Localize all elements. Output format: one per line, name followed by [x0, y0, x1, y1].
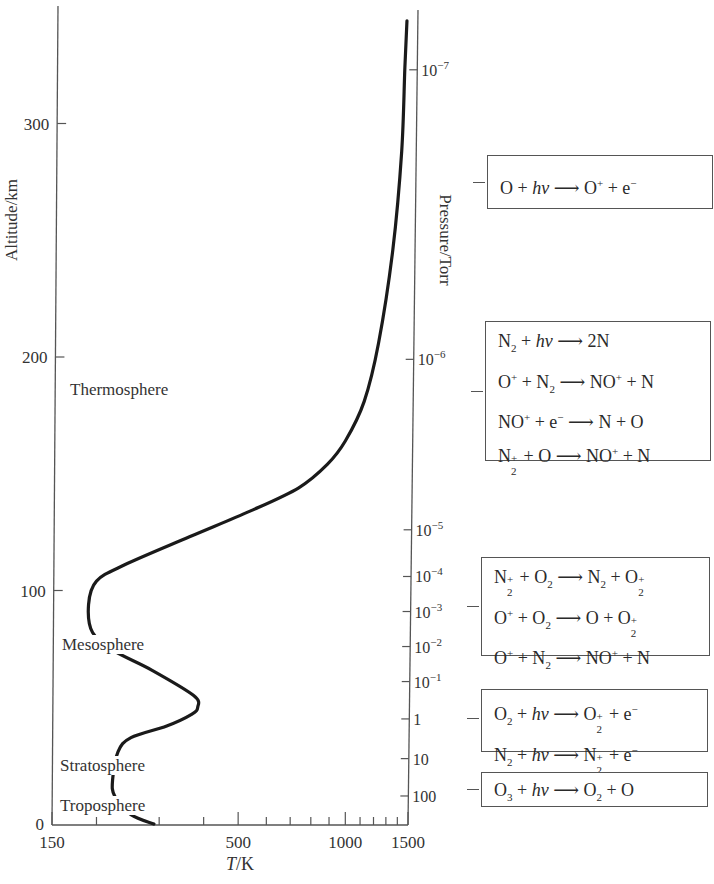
- x-axis-label: T/K: [226, 854, 254, 874]
- reaction-box: O + hν ⟶ O+ + e−: [487, 155, 713, 209]
- reaction-box: N2 + hν ⟶ 2NO+ + N2 ⟶ NO+ + NNO+ + e− ⟶ …: [485, 321, 711, 461]
- x-tick-label: 1000: [328, 833, 362, 852]
- y-axis-label: Altitude/km: [2, 179, 21, 261]
- reaction-equation: N+2 + O ⟶ NO+ + N: [498, 437, 710, 471]
- box-connector: [471, 391, 483, 392]
- layer-label-thermosphere: Thermosphere: [70, 380, 168, 399]
- pressure-tick-label: 10: [413, 751, 429, 768]
- y-tick-label: 0: [36, 815, 45, 834]
- pressure-tick-label: 10−7: [421, 59, 449, 79]
- reaction-box: N+2 + O2 ⟶ N2 + O+2O+ + O2 ⟶ O + O+2O+ +…: [481, 557, 710, 656]
- y-tick-label: 200: [22, 348, 48, 367]
- pressure-tick-label: 100: [412, 788, 436, 805]
- pressure-tick-label: 10−2: [414, 636, 442, 656]
- reaction-equation: O+ + N2 ⟶ NO+ + N: [494, 639, 709, 680]
- layer-label-stratosphere: Stratosphere: [60, 756, 145, 775]
- box-connector: [467, 718, 479, 719]
- layer-label-mesosphere: Mesosphere: [62, 635, 144, 654]
- x-tick-label: 1500: [391, 833, 425, 852]
- pressure-tick-label: 10−4: [415, 565, 443, 585]
- pressure-tick-label: 10−5: [416, 519, 444, 539]
- reaction-equation: O + hν ⟶ O+ + e−: [500, 169, 712, 203]
- reaction-equation: N+2 + O2 ⟶ N2 + O+2: [494, 563, 709, 599]
- reaction-equation: O3 + hν ⟶ O2 + O: [494, 776, 707, 812]
- reaction-equation: O+ + O2 ⟶ O + O+2: [494, 599, 709, 640]
- pressure-tick-label: 1: [413, 711, 421, 728]
- x-tick-label: 500: [225, 833, 251, 852]
- x-tick-label: 150: [39, 833, 65, 852]
- box-connector: [467, 606, 479, 607]
- pressure-tick-label: 10−1: [414, 671, 442, 691]
- reaction-equation: N2 + hν ⟶ N+2 + e−: [494, 736, 707, 777]
- x-ticks: 15050010001500: [39, 812, 425, 852]
- pressure-ticks: 10−710−610−510−410−310−210−1110100: [400, 59, 449, 805]
- y-tick-label: 100: [20, 582, 46, 601]
- pressure-tick-label: 10−6: [418, 348, 446, 368]
- reaction-equation: NO+ + e− ⟶ N + O: [498, 403, 710, 437]
- y-axis-altitude: [52, 6, 58, 825]
- axes: [52, 6, 418, 825]
- y-tick-label: 300: [24, 115, 50, 134]
- layer-label-troposphere: Troposphere: [60, 796, 145, 815]
- box-connector: [473, 182, 485, 183]
- reaction-equation: O2 + hν ⟶ O+2 + e−: [494, 695, 707, 736]
- y2-axis-label: Pressure/Torr: [436, 194, 455, 286]
- temperature-curve: [88, 21, 407, 824]
- y2-axis-pressure: [408, 10, 418, 825]
- pressure-tick-label: 10−3: [415, 601, 443, 621]
- reaction-box: O2 + hν ⟶ O+2 + e−N2 + hν ⟶ N+2 + e−: [481, 689, 708, 752]
- reaction-box: O3 + hν ⟶ O2 + O: [481, 772, 708, 807]
- box-connector: [467, 789, 479, 790]
- y-ticks: 0100200300: [20, 115, 66, 835]
- reaction-equation: N2 + hν ⟶ 2N: [498, 327, 710, 363]
- reaction-equation: O+ + N2 ⟶ NO+ + N: [498, 363, 710, 404]
